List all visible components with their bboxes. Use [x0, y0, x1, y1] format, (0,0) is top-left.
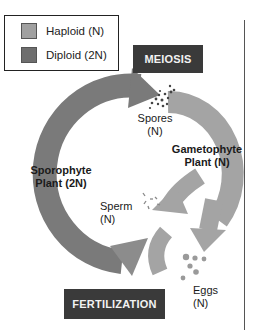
sperm-label: Sperm (N)	[100, 200, 138, 226]
eggs-label-line1: Eggs	[193, 284, 227, 297]
sperm-label-line2: (N)	[100, 213, 138, 226]
spores-label-line1: Spores	[133, 112, 177, 125]
fertilization-banner: FERTILIZATION	[64, 289, 165, 319]
spores-label-line2: (N)	[133, 125, 177, 138]
meiosis-arrowhead	[128, 68, 160, 108]
sporophyte-label: Sporophyte Plant (2N)	[22, 164, 100, 190]
egg-cluster-icon	[181, 254, 207, 281]
eggs-label: Eggs (N)	[193, 284, 227, 310]
legend-label-diploid: Diploid (2N)	[46, 49, 107, 61]
haploid-swatch-icon	[21, 23, 37, 39]
legend-item-diploid: Diploid (2N)	[21, 47, 107, 63]
sporophyte-label-line1: Sporophyte	[22, 164, 100, 177]
gametophyte-label-line1: Gametophyte	[168, 143, 246, 156]
eggs-label-line2: (N)	[193, 297, 227, 310]
divider-line	[244, 20, 245, 330]
legend-label-haploid: Haploid (N)	[46, 25, 104, 37]
legend-item-haploid: Haploid (N)	[21, 23, 104, 39]
gametophyte-label: Gametophyte Plant (N)	[168, 143, 246, 169]
egg-arrowhead	[190, 228, 226, 252]
diploid-swatch-icon	[21, 47, 37, 63]
gametophyte-label-line2: Plant (N)	[168, 156, 246, 169]
meiosis-banner: MEIOSIS	[133, 45, 203, 73]
gamete-merge-arc	[156, 232, 166, 272]
spores-label: Spores (N)	[133, 112, 177, 138]
egg-branch	[208, 200, 214, 230]
sporophyte-label-line2: Plant (2N)	[22, 177, 100, 190]
legend: Haploid (N) Diploid (2N)	[4, 15, 119, 71]
sperm-label-line1: Sperm	[100, 200, 138, 213]
